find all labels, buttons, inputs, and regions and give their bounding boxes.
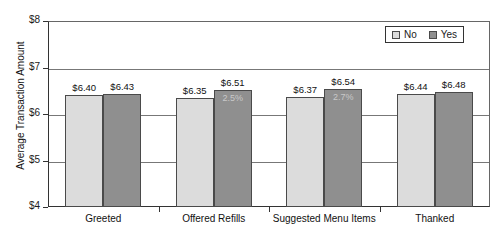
bar-chart: Average Transaction Amount $4$5$6$7$8 Gr…	[0, 0, 503, 236]
y-tick-mark	[43, 21, 48, 22]
gridline	[49, 69, 489, 70]
y-tick-label: $6	[29, 107, 40, 118]
bar-yes-0	[103, 94, 141, 207]
legend-item-yes: Yes	[429, 30, 457, 40]
percent-annotation: 2.5%	[213, 93, 253, 103]
bar-value-label: $6.40	[64, 82, 104, 93]
bar-no-1	[176, 98, 214, 207]
bar-value-label: $6.54	[323, 76, 363, 87]
y-tick-label: $5	[29, 154, 40, 165]
y-tick-mark	[43, 161, 48, 162]
legend-swatch-icon	[429, 31, 437, 39]
x-axis-label: Offered Refills	[159, 213, 270, 224]
bar-yes-2	[324, 89, 362, 207]
y-tick-mark	[43, 68, 48, 69]
y-axis-title: Average Transaction Amount	[15, 16, 26, 196]
x-axis-label: Suggested Menu Items	[269, 213, 380, 224]
bar-yes-1	[214, 90, 252, 207]
bar-no-2	[286, 97, 324, 207]
bar-no-3	[397, 94, 435, 207]
y-tick-mark	[43, 114, 48, 115]
bar-no-0	[65, 95, 103, 207]
legend-label: Yes	[441, 30, 457, 40]
legend-swatch-icon	[392, 31, 400, 39]
legend-item-no: No	[392, 30, 417, 40]
x-tick-mark	[380, 207, 381, 212]
legend: NoYes	[385, 26, 464, 43]
bar-value-label: $6.48	[434, 79, 474, 90]
bar-value-label: $6.51	[213, 77, 253, 88]
y-tick-label: $7	[29, 61, 40, 72]
legend-label: No	[404, 30, 417, 40]
y-tick-label: $8	[29, 14, 40, 25]
bar-value-label: $6.44	[396, 81, 436, 92]
bar-value-label: $6.37	[285, 84, 325, 95]
bar-yes-3	[435, 92, 473, 207]
y-tick-label: $4	[29, 200, 40, 211]
bar-value-label: $6.43	[102, 81, 142, 92]
x-axis-label: Thanked	[380, 213, 491, 224]
x-axis-label: Greeted	[48, 213, 159, 224]
bar-value-label: $6.35	[175, 85, 215, 96]
percent-annotation: 2.7%	[323, 92, 363, 102]
y-tick-mark	[43, 207, 48, 208]
x-tick-mark	[159, 207, 160, 212]
x-tick-mark	[269, 207, 270, 212]
